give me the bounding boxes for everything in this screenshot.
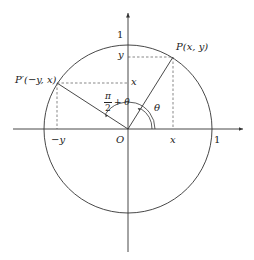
point-p-label: P(x, y) <box>176 42 208 52</box>
x-axis-one-label: 1 <box>214 135 220 145</box>
x-value-on-y-axis-label: x <box>131 77 137 87</box>
two-denominator: 2 <box>105 103 111 113</box>
theta-label: θ <box>154 103 160 113</box>
radius-op <box>128 57 173 129</box>
neg-y-tick-label: −y <box>51 135 65 145</box>
plus-theta: + θ <box>114 98 130 107</box>
origin-label: O <box>116 135 124 145</box>
x-value-tick-label: x <box>170 135 176 145</box>
diagram-graphics <box>0 0 254 260</box>
point-p-prime-label: P′(−y, x) <box>15 75 57 85</box>
y-value-tick-label: y <box>118 50 124 60</box>
pi-half-plus-theta-label: π 2 + θ <box>104 92 130 113</box>
angle-arc-theta <box>141 109 152 129</box>
y-axis-one-label: 1 <box>117 30 123 40</box>
pi-numerator: π <box>104 92 112 103</box>
unit-circle-diagram: 1 1 O P(x, y) P′(−y, x) y x x −y θ π 2 +… <box>0 0 254 260</box>
